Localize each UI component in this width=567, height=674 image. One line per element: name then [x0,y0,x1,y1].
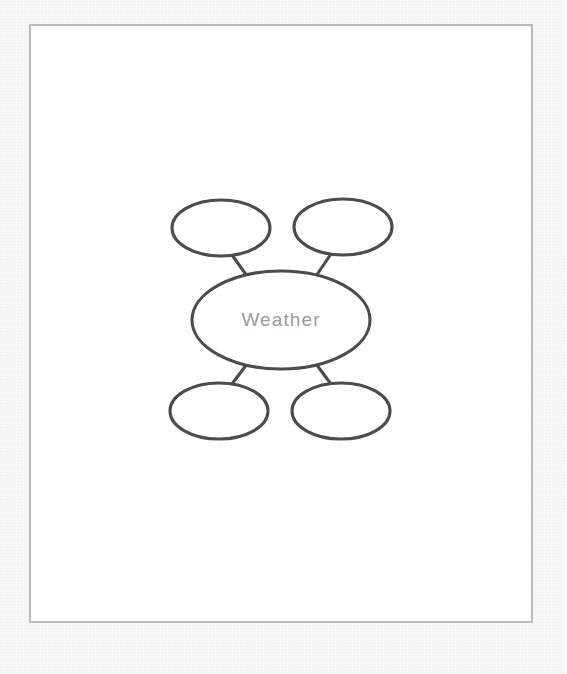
bubble-top-right[interactable] [294,199,392,255]
center-bubble-label: Weather [241,309,320,330]
bubble-bottom-left[interactable] [170,383,268,439]
bubble-top-left[interactable] [172,200,270,256]
bubble-bottom-right[interactable] [292,383,390,439]
